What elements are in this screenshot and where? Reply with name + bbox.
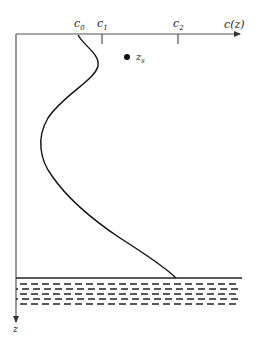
axis-label-cz: c(z) [224,18,245,31]
sediment-layers [16,284,242,304]
sound-speed-profile [41,35,176,278]
label-c2: c2 [173,17,184,32]
sound-speed-diagram: c0 c1 c2 c(z) z zs [0,0,256,340]
source-point [124,54,130,60]
label-c1: c1 [97,17,108,32]
label-c0: c0 [74,17,85,32]
axis-label-z: z [12,324,18,334]
source-label: zs [135,51,145,65]
